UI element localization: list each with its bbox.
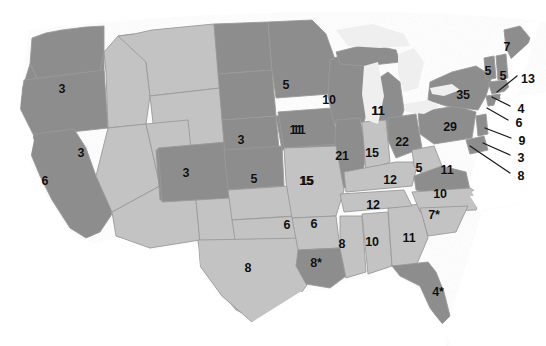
vote-label-MD: 8 xyxy=(518,170,525,183)
vote-label-CT: 6 xyxy=(516,117,523,130)
vote-label-NH: 5 xyxy=(500,70,507,83)
vote-label-IN: 15 xyxy=(365,147,379,160)
state-IA-b xyxy=(278,108,338,148)
vote-label-RI: 4 xyxy=(518,103,525,116)
state-SC xyxy=(420,206,468,236)
vote-label-ME: 7 xyxy=(504,41,511,54)
vote-label-VT: 5 xyxy=(485,65,492,78)
vote-label-MA: 13 xyxy=(521,73,535,86)
vote-label-WA: 3 xyxy=(59,83,66,96)
lake-huron xyxy=(398,48,424,92)
vote-label-TX: 8 xyxy=(245,262,252,275)
vote-label-KY: 12 xyxy=(383,174,397,187)
vote-label-OH: 22 xyxy=(395,136,409,149)
vote-label-NC: 11 xyxy=(440,164,453,177)
vote-label-NE: 5 xyxy=(251,173,258,186)
vote-label-VA: 7* xyxy=(428,209,440,222)
vote-label-ND: 5 xyxy=(283,79,290,92)
lake-superior xyxy=(336,24,410,48)
vote-label-MI: 11 xyxy=(371,105,384,118)
vote-label-AL: 10 xyxy=(365,236,379,249)
vote-label-MN: 10 xyxy=(322,94,336,107)
vote-label-MO: 15 xyxy=(300,175,314,188)
state-MN xyxy=(268,20,336,98)
vote-label-FL: 4* xyxy=(432,286,444,299)
vote-label-AR: 6 xyxy=(311,218,318,231)
vote-label-TN: 12 xyxy=(366,199,380,212)
vote-label-NY: 35 xyxy=(456,89,470,102)
vote-label-DE: 3 xyxy=(518,152,525,165)
state-KS xyxy=(228,186,294,220)
vote-label-CA: 6 xyxy=(42,175,49,188)
vote-label-PA: 29 xyxy=(443,121,457,134)
vote-label-CO: 3 xyxy=(183,167,190,180)
vote-label-OR: 3 xyxy=(78,147,85,160)
vote-label-NJ: 9 xyxy=(519,135,526,148)
state-OR-body xyxy=(20,70,108,136)
state-CO-b xyxy=(158,142,230,202)
vote-label-MS: 8 xyxy=(339,238,346,251)
us-electoral-map: 336335115156810111121151122151251268*810… xyxy=(0,0,546,346)
map-graphic xyxy=(0,0,546,346)
vote-label-LA: 8* xyxy=(310,257,322,270)
vote-label-WV: 5 xyxy=(416,162,423,175)
vote-label-IL: 21 xyxy=(335,150,349,163)
state-ND xyxy=(214,22,272,74)
vote-label-WY: 3 xyxy=(238,134,245,147)
vote-label-GA: 11 xyxy=(402,232,415,245)
vote-label-OK: 6 xyxy=(284,219,291,232)
vote-label-IA: 11 xyxy=(289,124,302,137)
state-NJ xyxy=(476,114,488,136)
vote-label-SC: 10 xyxy=(433,188,447,201)
state-SD xyxy=(218,70,276,120)
